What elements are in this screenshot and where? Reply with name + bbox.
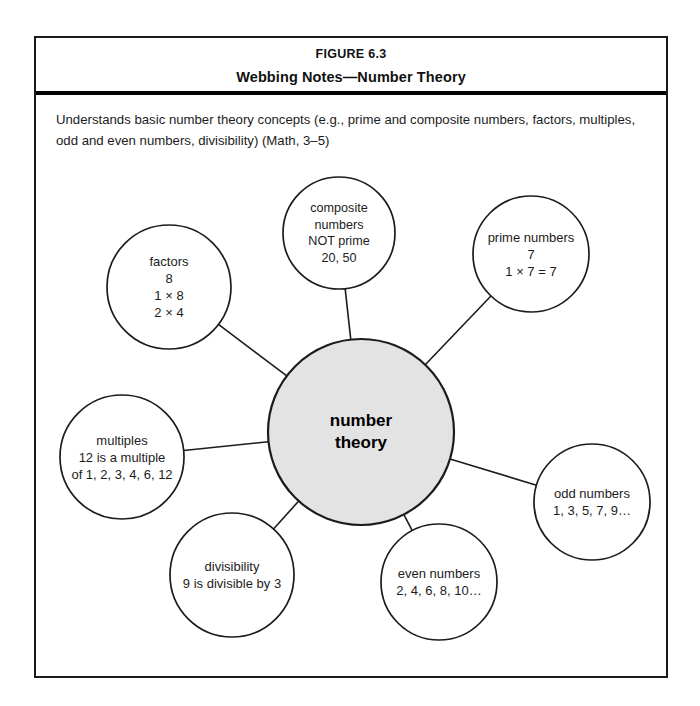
web-node-odd-numbers[interactable]: odd numbers 1, 3, 5, 7, 9…	[534, 444, 650, 560]
web-node-composite-numbers[interactable]: composite numbers NOT prime 20, 50	[283, 177, 395, 289]
web-node-divisibility[interactable]: divisibility 9 is divisible by 3	[170, 513, 294, 637]
web-node-factors[interactable]: factors 8 1 × 8 2 × 4	[107, 225, 231, 349]
web-edge-odd-numbers	[450, 459, 536, 485]
concept-web-canvas: factors 8 1 × 8 2 × 4composite numbers N…	[36, 38, 666, 676]
web-node-label-odd-numbers: odd numbers 1, 3, 5, 7, 9…	[549, 485, 635, 519]
web-node-label-center: number theory	[326, 410, 396, 454]
web-node-center[interactable]: number theory	[268, 339, 454, 525]
figure-page: FIGURE 6.3 Webbing Notes—Number Theory U…	[0, 0, 700, 706]
web-node-label-multiples: multiples 12 is a multiple of 1, 2, 3, 4…	[67, 432, 176, 483]
web-edge-multiples	[184, 442, 269, 451]
web-node-multiples[interactable]: multiples 12 is a multiple of 1, 2, 3, 4…	[60, 395, 184, 519]
web-node-label-prime-numbers: prime numbers 7 1 × 7 = 7	[484, 229, 579, 280]
web-node-label-composite-numbers: composite numbers NOT prime 20, 50	[304, 200, 373, 266]
web-node-prime-numbers[interactable]: prime numbers 7 1 × 7 = 7	[473, 196, 589, 312]
web-node-label-even-numbers: even numbers 2, 4, 6, 8, 10…	[392, 565, 485, 599]
figure-frame: FIGURE 6.3 Webbing Notes—Number Theory U…	[34, 36, 668, 678]
web-edge-composite-numbers	[345, 289, 351, 340]
web-node-label-factors: factors 8 1 × 8 2 × 4	[145, 253, 192, 321]
web-node-label-divisibility: divisibility 9 is divisible by 3	[179, 558, 285, 592]
web-node-even-numbers[interactable]: even numbers 2, 4, 6, 8, 10…	[381, 524, 497, 640]
